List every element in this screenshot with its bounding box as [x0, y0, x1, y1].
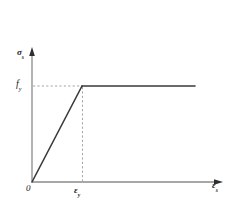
yield-stress-subscript: y	[19, 85, 22, 92]
yield-strain-subscript: y	[78, 192, 80, 198]
y-axis-arrowhead	[29, 47, 35, 56]
y-axis-label-subscript: s	[22, 54, 24, 60]
stress-strain-figure: σs εs fy εy 0	[0, 0, 238, 213]
elastic-branch-line	[32, 86, 82, 182]
x-axis	[32, 179, 223, 185]
yield-strain-tick-label: εy	[74, 186, 80, 197]
x-axis-label-subscript: s	[216, 187, 218, 193]
origin-label: 0	[26, 184, 31, 193]
plot-canvas	[0, 0, 238, 213]
y-axis-label: σs	[17, 48, 24, 59]
y-axis	[29, 47, 35, 182]
yield-stress-tick-label: fy	[16, 79, 22, 91]
x-axis-label: εs	[212, 181, 218, 192]
